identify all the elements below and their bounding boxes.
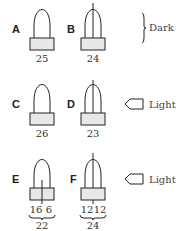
diagram: A 25 B 24 Dark C 26 D 23 Light E 16	[0, 0, 181, 230]
condition-label: Dark	[149, 22, 175, 33]
coleoptile-shape	[34, 10, 50, 39]
dark-indicator: Dark	[142, 13, 175, 43]
figure-a: A 25	[12, 10, 54, 65]
agar-block	[81, 113, 105, 125]
right-value: 6	[46, 204, 52, 215]
figure-b: B 24	[67, 3, 105, 64]
figure-f: F 12 12 24	[70, 153, 106, 230]
agar-block	[30, 38, 54, 50]
light-indicator: Light	[125, 99, 176, 110]
left-arrow-icon	[125, 99, 143, 109]
left-value: 16	[30, 204, 43, 215]
figure-label: B	[67, 23, 75, 35]
figure-label: E	[12, 173, 19, 185]
figure-value: 25	[36, 53, 49, 64]
figure-label: D	[67, 98, 75, 110]
figure-value: 24	[87, 220, 100, 230]
figure-value: 22	[36, 220, 49, 230]
right-brace-icon	[142, 13, 146, 43]
figure-value: 26	[36, 128, 49, 139]
figure-label: F	[70, 173, 77, 185]
right-value: 12	[94, 204, 107, 215]
figure-label: C	[12, 98, 20, 110]
figure-e: E 16 6 22	[12, 160, 55, 231]
left-arrow-icon	[125, 174, 143, 184]
agar-block	[30, 113, 54, 125]
agar-block	[81, 38, 105, 50]
condition-label: Light	[149, 174, 176, 185]
light-indicator-2: Light	[125, 174, 176, 185]
figure-label: A	[12, 23, 20, 35]
coleoptile-shape	[34, 85, 50, 114]
figure-value: 23	[87, 128, 100, 139]
agar-block	[81, 188, 105, 200]
condition-label: Light	[149, 99, 176, 110]
figure-value: 24	[87, 53, 100, 64]
left-value: 12	[81, 204, 94, 215]
figure-c: C 26	[12, 85, 54, 140]
figure-d: D 23	[67, 80, 105, 139]
